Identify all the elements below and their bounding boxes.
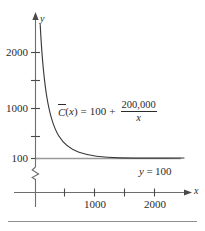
formula-equals: =: [81, 105, 87, 117]
axis-break-zigzag: [32, 167, 38, 180]
x-tick-label-1000: 1000: [75, 199, 115, 210]
y-tick-label-2000: 2000: [0, 47, 28, 58]
page-divider-rule: [8, 221, 197, 222]
formula-overbar: [58, 104, 66, 105]
formula-function-name: C: [58, 105, 65, 118]
y-axis-arrowhead: [32, 12, 38, 20]
function-formula-annotation: C (x) = 100 + 200,000 x: [58, 99, 157, 123]
x-axis-label: x: [194, 186, 198, 196]
formula-plus: +: [109, 105, 115, 117]
x-axis-arrowhead: [184, 189, 192, 195]
formula-fraction: 200,000 x: [121, 99, 157, 123]
asymptote-variable: y: [139, 165, 144, 177]
asymptote-equals: =: [146, 165, 152, 177]
y-tick-label-1000: 1000: [0, 103, 28, 114]
y-tick-label-100: 100: [0, 153, 28, 164]
y-axis-label: y: [40, 14, 44, 24]
formula-numerator: 200,000: [121, 99, 157, 110]
formula-constant: 100: [90, 105, 107, 117]
asymptote-value: 100: [155, 165, 172, 177]
x-tick-label-2000: 2000: [135, 199, 175, 210]
asymptote-annotation: y=100: [139, 166, 172, 177]
formula-fn-letter: C: [58, 106, 65, 118]
cost-curve: [40, 25, 184, 159]
formula-denominator: x: [136, 112, 141, 123]
figure-container: 2000 1000 100 1000 2000 y x C (x) = 100 …: [0, 0, 205, 231]
formula-close-paren: ): [74, 105, 78, 117]
